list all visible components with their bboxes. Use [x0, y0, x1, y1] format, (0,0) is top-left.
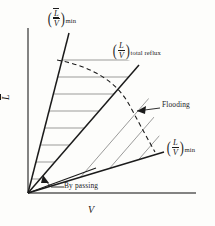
paren-open: ( — [113, 42, 117, 59]
fraction-lv: LV — [118, 41, 125, 59]
label-by-passing: By passing — [64, 182, 98, 189]
x-axis-label: V — [88, 205, 94, 215]
fraction-denominator: V — [53, 18, 60, 28]
paren-open: ( — [48, 10, 52, 27]
label-flooding: Flooding — [162, 101, 190, 108]
figure-container: (LV)min (LV)total reflux (LV)min Floodin… — [0, 0, 215, 226]
flooding-limit-curve — [57, 60, 155, 152]
overbar-wrapper: V — [54, 19, 59, 28]
fraction-numerator: L — [118, 41, 125, 50]
overbar-wrapper: L — [54, 9, 59, 18]
label-subscript: min — [185, 147, 196, 154]
overbar-wrapper: L — [1, 94, 11, 100]
paren-open: ( — [167, 139, 171, 156]
fraction-numerator: L — [53, 9, 60, 18]
fraction-numerator: L — [172, 138, 179, 147]
paren-close: ) — [61, 10, 65, 27]
label-subscript: min — [66, 18, 77, 25]
paren-close: ) — [180, 139, 184, 156]
paren-close: ) — [126, 42, 130, 59]
fraction-denominator: V — [172, 147, 179, 157]
y-axis-label: L — [1, 94, 11, 100]
label-lv-total-reflux: (LV)total reflux — [112, 41, 161, 59]
fraction-lv-bar: LV — [53, 9, 60, 27]
fraction-denominator: V — [118, 50, 125, 60]
label-lv-bar-min: (LV)min — [47, 9, 76, 27]
diagram-canvas — [0, 0, 215, 226]
label-subscript: total reflux — [131, 50, 161, 57]
flooding-leader — [137, 106, 160, 114]
fraction-lv: LV — [172, 138, 179, 156]
label-lv-min: (LV)min — [166, 138, 195, 156]
